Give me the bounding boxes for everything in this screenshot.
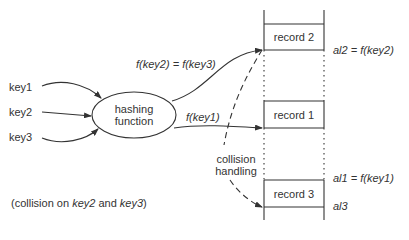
note-key3: key3 bbox=[120, 197, 143, 209]
note-mid: and bbox=[95, 197, 119, 209]
hashing-function-line1: hashing bbox=[104, 103, 164, 115]
collision-note: (collision on key2 and key3) bbox=[11, 197, 147, 209]
collision-arrow-lower bbox=[230, 180, 262, 207]
key3-arrow bbox=[42, 129, 98, 142]
address-al2: al2 = f(key2) bbox=[333, 44, 394, 56]
lower-arrow-label: f(key1) bbox=[186, 111, 220, 123]
key2-label: key2 bbox=[9, 106, 32, 118]
hashing-function-line2: function bbox=[104, 115, 164, 127]
key2-arrow bbox=[42, 112, 91, 116]
record-1: record 1 bbox=[264, 109, 324, 121]
note-key2: key2 bbox=[72, 197, 95, 209]
key1-arrow bbox=[42, 82, 101, 98]
record-3: record 3 bbox=[264, 188, 324, 200]
arrow-to-record1 bbox=[174, 126, 262, 128]
address-al1: al1 = f(key1) bbox=[333, 172, 394, 184]
collision-handling-label: collision handling bbox=[208, 153, 264, 177]
note-prefix: (collision on bbox=[11, 197, 72, 209]
hashing-function-label: hashing function bbox=[104, 103, 164, 127]
collision-handling-line1: collision bbox=[208, 153, 264, 165]
key1-label: key1 bbox=[9, 81, 32, 93]
record-2: record 2 bbox=[264, 31, 324, 43]
upper-arrow-label: f(key2) = f(key3) bbox=[136, 58, 216, 70]
address-al3: al3 bbox=[333, 200, 348, 212]
collision-handling-line2: handling bbox=[208, 165, 264, 177]
note-suffix: ) bbox=[143, 197, 147, 209]
key3-label: key3 bbox=[9, 131, 32, 143]
collision-arrow-upper bbox=[224, 50, 262, 145]
